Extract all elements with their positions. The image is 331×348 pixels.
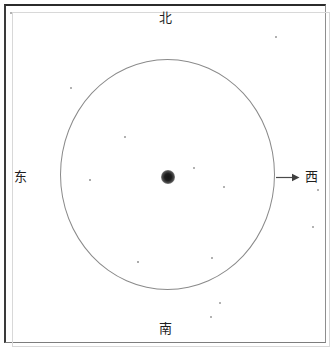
scan-speck <box>211 257 213 259</box>
direction-label-west: 西 <box>305 170 318 183</box>
direction-label-north: 北 <box>0 11 331 24</box>
scan-speck <box>210 316 212 318</box>
scan-speck <box>70 87 72 89</box>
scan-speck <box>124 136 126 138</box>
scan-speck <box>275 36 277 38</box>
orbital-direction-diagram: 北 南 东 西 <box>0 0 331 348</box>
scan-speck <box>137 261 139 263</box>
scan-speck <box>89 179 91 181</box>
center-body <box>161 170 175 184</box>
direction-label-south: 南 <box>0 322 331 335</box>
west-direction-arrow <box>276 171 300 184</box>
direction-label-east: 东 <box>14 170 27 183</box>
scan-speck <box>219 302 221 304</box>
scan-speck <box>193 167 195 169</box>
scan-speck <box>317 189 319 191</box>
scan-speck <box>312 226 314 228</box>
